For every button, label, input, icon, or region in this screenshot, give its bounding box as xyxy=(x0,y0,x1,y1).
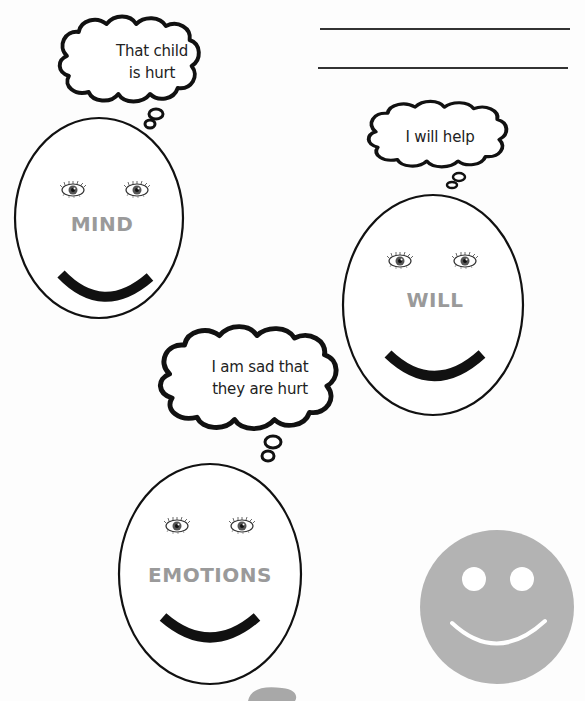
mind-thought-text: That child is hurt xyxy=(97,40,207,84)
will-label: WILL xyxy=(400,288,470,312)
will-thought-text: I will help xyxy=(395,126,485,148)
emotions-label: EMOTIONS xyxy=(140,563,280,587)
gray-smiley-icon xyxy=(420,530,574,684)
emotions-thought-text: I am sad that they are hurt xyxy=(190,356,330,400)
gray-blob-shape xyxy=(248,687,296,701)
diagram-canvas xyxy=(0,0,585,701)
mind-label: MIND xyxy=(62,212,142,236)
